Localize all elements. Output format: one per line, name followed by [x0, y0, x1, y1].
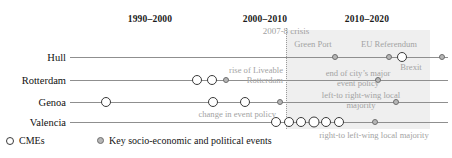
crisis-divider-line [286, 28, 287, 129]
cme-marker-rotterdam-1[interactable] [192, 75, 202, 85]
axis-line-genoa [70, 102, 448, 103]
legend-label-event: Key socio-economic and political events [109, 135, 272, 146]
period-heading-3: 2010–2020 [345, 14, 390, 24]
cme-marker-valencia-5[interactable] [321, 117, 331, 127]
legend: CMEsKey socio-economic and political eve… [0, 133, 452, 153]
row-label-wrap-genoa: Genoa [0, 97, 66, 108]
annotation-end-of-city-policy-1: end of city’s major [326, 69, 391, 78]
event-marker-hull-2[interactable] [386, 54, 392, 60]
legend-label-cme: CMEs [19, 135, 45, 146]
annotation-rotterdam-annot: Rotterdam [247, 76, 283, 85]
annotation-eu-referendum: EU Referendum [361, 40, 417, 49]
event-marker-hull-1[interactable] [332, 54, 338, 60]
row-label-wrap-rotterdam: Rotterdam [0, 75, 66, 86]
legend-item-cme: CMEs [6, 135, 45, 146]
event-marker-rotterdam-3[interactable] [223, 77, 229, 83]
timeline-figure: 1990–20002000–20102010–2020 2007-8 crisi… [0, 0, 452, 158]
cme-marker-genoa-2[interactable] [208, 97, 218, 107]
cme-marker-valencia-6[interactable] [334, 117, 344, 127]
row-label-valencia: Valencia [0, 117, 66, 128]
period-heading-2: 2000–2010 [243, 14, 288, 24]
annotation-brexit: Brexit [400, 63, 421, 72]
cme-marker-rotterdam-2[interactable] [207, 75, 217, 85]
event-marker-valencia-7[interactable] [372, 119, 378, 125]
crisis-label: 2007-8 crisis [263, 26, 310, 36]
legend-item-event: Key socio-economic and political events [97, 135, 272, 146]
annotation-change-event-policy: change in event policy [198, 110, 276, 119]
annotation-end-of-city-policy-2: event policy [337, 79, 379, 88]
cme-marker-icon [6, 137, 14, 145]
event-marker-genoa-4[interactable] [277, 99, 283, 105]
axis-line-valencia [70, 122, 448, 123]
annotation-left-to-right-2: majority [346, 101, 375, 110]
annotation-rise-of-liveable: rise of Liveable [229, 66, 283, 75]
cme-marker-valencia-2[interactable] [284, 117, 294, 127]
cme-marker-valencia-3[interactable] [296, 117, 306, 127]
event-marker-icon [97, 137, 104, 144]
row-label-wrap-hull: Hull [0, 52, 66, 63]
row-label-genoa: Genoa [0, 97, 66, 108]
period-heading-1: 1990–2000 [128, 14, 173, 24]
event-marker-hull-4[interactable] [439, 54, 445, 60]
cme-marker-hull-3[interactable] [397, 52, 407, 62]
row-label-hull: Hull [0, 52, 66, 63]
cme-marker-genoa-1[interactable] [101, 97, 111, 107]
annotation-green-port: Green Port [294, 40, 331, 49]
cme-marker-valencia-4[interactable] [309, 117, 320, 128]
row-label-wrap-valencia: Valencia [0, 117, 66, 128]
cme-marker-genoa-3[interactable] [240, 97, 250, 107]
annotation-left-to-right-1: left-to right-wing local [322, 91, 400, 100]
row-label-rotterdam: Rotterdam [0, 75, 66, 86]
